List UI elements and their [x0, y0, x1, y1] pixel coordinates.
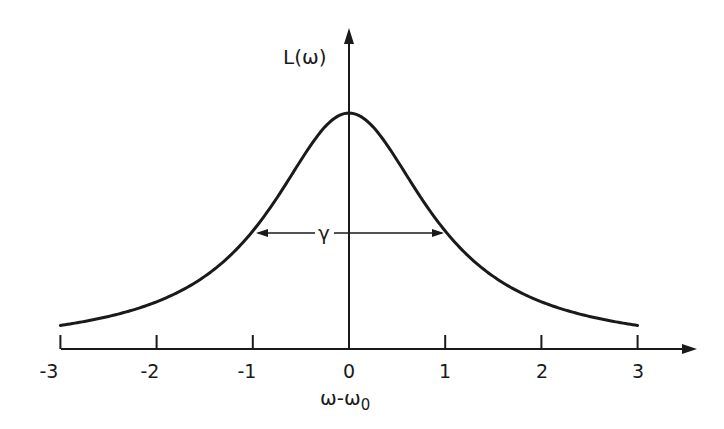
- gamma-left-arrow-icon: [256, 229, 268, 237]
- y-axis-label: L(ω): [283, 45, 327, 69]
- tick-label: 2: [536, 360, 548, 382]
- tick-label: -1: [238, 360, 257, 382]
- x-axis-label-main: ω-ω: [320, 386, 361, 410]
- y-axis-arrow-icon: [344, 28, 354, 44]
- x-axis-label-subscript: 0: [361, 396, 371, 414]
- tick-label: -2: [141, 360, 160, 382]
- x-tick-labels: -3 -2 -1 0 1 2 3: [40, 360, 645, 382]
- tick-label: 0: [343, 360, 355, 382]
- x-axis-arrow-icon: [682, 344, 697, 354]
- tick-label: -3: [40, 360, 59, 382]
- x-axis-label: ω-ω0: [320, 386, 370, 414]
- lorentzian-chart: -3 -2 -1 0 1 2 3 L(ω) ω-ω0 γ: [0, 0, 724, 429]
- gamma-label: γ: [318, 221, 330, 245]
- tick-label: 1: [439, 360, 451, 382]
- gamma-right-arrow-icon: [432, 229, 444, 237]
- tick-label: 3: [632, 360, 644, 382]
- x-ticks: [60, 335, 637, 349]
